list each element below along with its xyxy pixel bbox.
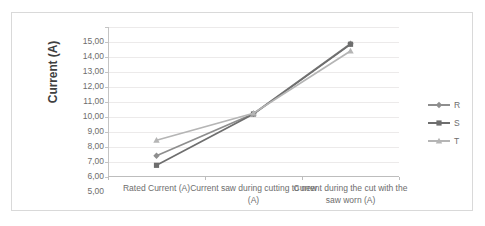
data-point-marker [436,120,441,125]
y-tick-label: 9,00 [64,126,104,136]
y-tick-label: 10,00 [64,111,104,121]
series-R [153,41,353,159]
legend-swatch [428,104,450,106]
x-tickmark [205,177,206,180]
y-tick-label: 11,00 [64,96,104,106]
series-line [157,44,351,156]
legend-item-R[interactable]: R [428,101,478,109]
legend-swatch [428,122,450,124]
y-tick-label: 13,00 [64,66,104,76]
legend-label: R [454,101,460,109]
data-point-marker [154,163,159,168]
legend-swatch [428,140,450,142]
y-tick-label: 7,00 [64,156,104,166]
x-tickmark [302,177,303,180]
legend-item-T[interactable]: T [428,137,478,145]
legend-marker-icon [434,136,444,146]
chart-container: Current (A) 15,0014,0013,0012,0011,0010,… [11,12,473,211]
y-tick-label: 6,00 [64,171,104,181]
legend-label: S [454,119,460,127]
data-point-marker [347,48,353,54]
legend-marker-icon [434,100,444,110]
x-category-label: Current during the cut with the saw worn… [287,183,415,206]
series-lines [108,27,399,177]
series-line [157,44,351,165]
y-tick-label: 14,00 [64,51,104,61]
y-tick-label: 8,00 [64,141,104,151]
x-axis-category-labels: Rated Current (A)Current saw during cutt… [108,183,399,217]
y-tick-label: 15,00 [64,36,104,46]
y-axis-tick-labels: 15,0014,0013,0012,0011,0010,009,008,007,… [60,27,104,177]
data-point-marker [436,138,442,144]
plot-area [108,27,399,177]
data-point-marker [436,102,442,108]
legend-label: T [454,137,459,145]
chart-legend: RST [428,101,478,151]
legend-item-S[interactable]: S [428,119,478,127]
y-tick-label: 12,00 [64,81,104,91]
x-tickmark [108,177,109,180]
legend-marker-icon [434,118,444,128]
series-S [154,42,353,168]
x-tickmark [399,177,400,180]
series-T [153,48,353,143]
data-point-marker [153,153,159,159]
data-point-marker [348,42,353,47]
